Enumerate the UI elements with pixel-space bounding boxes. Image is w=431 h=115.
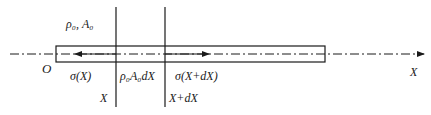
axis-label: X [410, 66, 417, 78]
element-mass-label: ρ₀A₀dX [120, 70, 155, 82]
bar-element-diagram [0, 0, 431, 115]
density-area-label: ρ₀, A₀ [66, 18, 93, 30]
stress-right-label: σ(X+dX) [175, 70, 218, 82]
section-left-label: X [100, 92, 107, 104]
origin-label: O [42, 62, 51, 75]
stress-left-label: σ(X) [70, 70, 91, 82]
section-right-label: X+dX [169, 92, 198, 104]
